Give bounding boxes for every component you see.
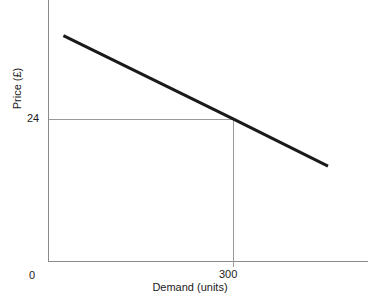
x-axis-title: Demand (units) <box>120 282 260 293</box>
y-axis-title: Price (£) <box>12 54 23 124</box>
demand-curve-line <box>63 36 328 167</box>
demand-curve-plot <box>0 0 371 305</box>
demand-curve-chart: 24 0 300 Price (£) Demand (units) <box>0 0 371 305</box>
caption-sliver <box>6 299 206 305</box>
x-axis-tick-label-300: 300 <box>219 269 237 280</box>
y-axis-tick-label-24: 24 <box>27 113 39 124</box>
origin-tick-label: 0 <box>29 270 35 281</box>
